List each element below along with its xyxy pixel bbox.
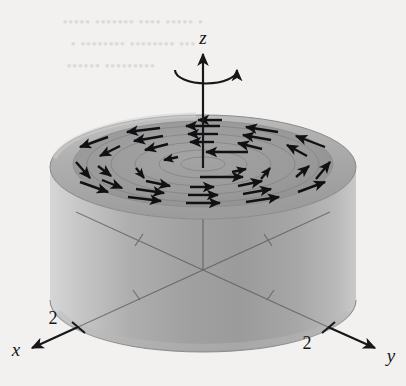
x-axis-line	[32, 327, 78, 348]
y-axis-tick-label: 2	[303, 333, 312, 353]
figure-container: • ••••• •••• ••••••• ••••• ••• •••••••• …	[0, 0, 406, 386]
rotation-arrow	[175, 70, 237, 83]
x-axis-label: x	[11, 339, 21, 360]
rotation-arrow-path	[175, 70, 237, 83]
y-axis-line	[328, 327, 375, 348]
z-axis-label: z	[198, 27, 207, 48]
y-axis-label: y	[385, 345, 396, 366]
x-axis-tick-label: 2	[49, 308, 58, 328]
figure-svg: z 2 x 2 y	[0, 0, 406, 386]
